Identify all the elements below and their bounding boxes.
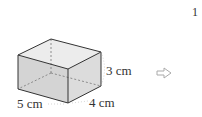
width-label: 4 cm [89, 95, 115, 111]
height-label: 3 cm [106, 63, 132, 79]
length-label: 5 cm [17, 96, 43, 112]
hollow-right-arrow-icon [156, 67, 172, 79]
